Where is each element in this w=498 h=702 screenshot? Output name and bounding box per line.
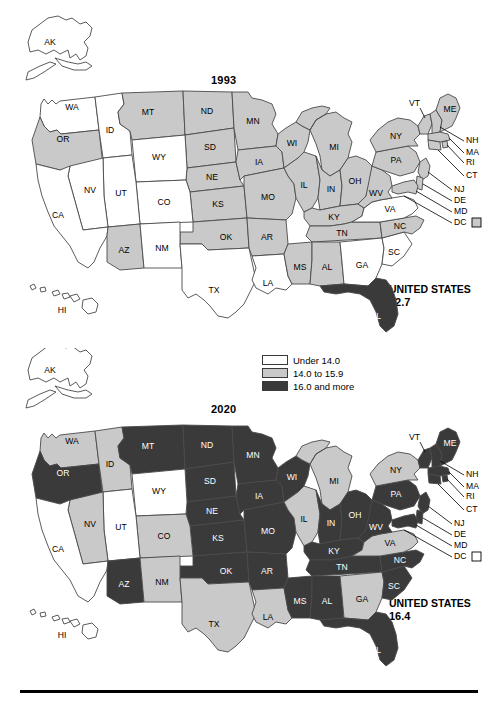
state-RI-2020[interactable] bbox=[442, 475, 448, 482]
callout-label-MD-2020: MD bbox=[454, 540, 467, 550]
leader-VT-2020 bbox=[420, 442, 425, 452]
leader-MD-1993 bbox=[416, 191, 452, 212]
state-label-MT-2020: MT bbox=[142, 441, 155, 451]
state-label-WY-2020: WY bbox=[152, 486, 166, 496]
state-AL-2020[interactable]: AL bbox=[310, 576, 344, 620]
state-label-ND-1993: ND bbox=[201, 106, 213, 116]
state-AK-1993[interactable]: AK bbox=[26, 16, 92, 80]
state-ND-2020[interactable]: ND bbox=[183, 425, 234, 469]
state-label-UT-1993: UT bbox=[115, 188, 127, 198]
state-HI-2020[interactable]: HI bbox=[30, 609, 98, 640]
callout-label-NJ-2020: NJ bbox=[454, 518, 465, 528]
callout-label-DE-2020: DE bbox=[454, 529, 466, 539]
state-label-KY-1993: KY bbox=[328, 212, 340, 222]
state-NY-1993[interactable]: NY bbox=[370, 118, 420, 152]
state-label-GA-2020: GA bbox=[356, 594, 369, 604]
state-CT-1993[interactable] bbox=[428, 140, 441, 150]
state-TX-1993[interactable]: TX bbox=[180, 244, 256, 318]
state-VT-2020[interactable] bbox=[418, 448, 432, 468]
state-label-AK-1993: AK bbox=[44, 37, 56, 47]
state-AK-2020[interactable]: AK bbox=[26, 348, 92, 408]
state-HI-1993[interactable]: HI bbox=[30, 284, 98, 315]
state-MD-1993[interactable] bbox=[392, 180, 418, 194]
leader-CT-2020 bbox=[438, 484, 464, 510]
state-WA-1993[interactable]: WA bbox=[40, 97, 99, 134]
state-VT-1993[interactable] bbox=[418, 114, 432, 134]
state-label-SD-1993: SD bbox=[204, 142, 216, 152]
map-page: 1993 UNITED STATES 12.7 AK HI WA bbox=[0, 0, 498, 702]
state-CT-2020[interactable] bbox=[428, 474, 441, 484]
leader-CT-1993 bbox=[438, 150, 464, 176]
state-KS-1993[interactable]: KS bbox=[190, 186, 247, 222]
state-CO-2020[interactable]: CO bbox=[136, 514, 193, 558]
state-WY-2020[interactable]: WY bbox=[132, 469, 187, 516]
state-label-WV-2020: WV bbox=[369, 522, 383, 532]
state-label-IL-1993: IL bbox=[300, 180, 307, 190]
callout-label-DC-1993: DC bbox=[454, 217, 466, 227]
state-label-ME-2020: ME bbox=[444, 438, 457, 448]
state-label-MO-2020: MO bbox=[261, 526, 275, 536]
state-label-NV-2020: NV bbox=[84, 519, 96, 529]
state-MN-1993[interactable]: MN bbox=[232, 92, 278, 150]
callout-label-MA-1993: MA bbox=[466, 147, 479, 157]
state-AZ-2020[interactable]: AZ bbox=[107, 558, 144, 604]
dc-swatch-1993 bbox=[472, 218, 481, 227]
state-label-IN-1993: IN bbox=[327, 184, 336, 194]
state-FL-2020[interactable]: FL bbox=[320, 612, 398, 666]
callout-label-DC-2020: DC bbox=[454, 551, 466, 561]
state-label-AL-2020: AL bbox=[322, 596, 333, 606]
callout-label-NJ-1993: NJ bbox=[454, 184, 465, 194]
state-label-ID-1993: ID bbox=[106, 125, 115, 135]
state-AR-1993[interactable]: AR bbox=[247, 218, 288, 256]
state-NM-2020[interactable]: NM bbox=[140, 556, 182, 602]
state-label-AR-2020: AR bbox=[261, 566, 273, 576]
state-MD-2020[interactable] bbox=[392, 514, 418, 528]
map-panel-1993: 1993 UNITED STATES 12.7 AK HI WA bbox=[0, 0, 498, 348]
state-SD-2020[interactable]: SD bbox=[185, 462, 236, 502]
state-NY-2020[interactable]: NY bbox=[370, 452, 420, 486]
state-label-CA-1993: CA bbox=[52, 210, 64, 220]
state-FL-1993[interactable]: FL bbox=[320, 278, 398, 332]
callout-label-RI-1993: RI bbox=[466, 157, 475, 167]
state-CO-1993[interactable]: CO bbox=[136, 180, 193, 224]
state-label-AR-1993: AR bbox=[261, 232, 273, 242]
state-label-AL-1993: AL bbox=[322, 262, 333, 272]
state-label-LA-1993: LA bbox=[263, 278, 274, 288]
state-NM-1993[interactable]: NM bbox=[140, 222, 182, 268]
state-label-VA-2020: VA bbox=[385, 538, 396, 548]
state-label-MT-1993: MT bbox=[142, 107, 155, 117]
state-label-WI-2020: WI bbox=[287, 472, 298, 482]
state-label-MN-2020: MN bbox=[246, 450, 259, 460]
bottom-divider bbox=[20, 690, 478, 693]
state-label-WV-1993: WV bbox=[369, 188, 383, 198]
state-SD-1993[interactable]: SD bbox=[185, 128, 236, 168]
state-label-TN-1993: TN bbox=[336, 228, 347, 238]
state-KS-2020[interactable]: KS bbox=[190, 520, 247, 556]
state-TX-2020[interactable]: TX bbox=[180, 578, 256, 652]
state-AR-2020[interactable]: AR bbox=[247, 552, 288, 590]
state-AL-1993[interactable]: AL bbox=[310, 242, 344, 286]
state-AZ-1993[interactable]: AZ bbox=[107, 224, 144, 270]
state-label-OH-2020: OH bbox=[349, 510, 362, 520]
state-WA-2020[interactable]: WA bbox=[40, 431, 99, 468]
choropleth-map-1993: AK HI WA OR ID bbox=[0, 0, 498, 348]
state-label-ID-2020: ID bbox=[106, 459, 115, 469]
leader-MA-1993 bbox=[449, 138, 464, 153]
callout-label-RI-2020: RI bbox=[466, 491, 475, 501]
state-label-TX-2020: TX bbox=[209, 619, 220, 629]
state-label-PA-2020: PA bbox=[391, 489, 402, 499]
state-label-TX-1993: TX bbox=[209, 285, 220, 295]
callout-label-VT-2020: VT bbox=[409, 432, 421, 442]
state-label-NC-1993: NC bbox=[394, 221, 406, 231]
state-label-MI-1993: MI bbox=[329, 142, 339, 152]
state-MN-2020[interactable]: MN bbox=[232, 426, 278, 484]
state-label-WA-1993: WA bbox=[65, 102, 79, 112]
state-label-CA-2020: CA bbox=[52, 544, 64, 554]
state-RI-1993[interactable] bbox=[442, 141, 448, 148]
state-ND-1993[interactable]: ND bbox=[183, 91, 234, 135]
state-label-GA-1993: GA bbox=[356, 260, 369, 270]
callout-label-DE-1993: DE bbox=[454, 195, 466, 205]
choropleth-map-2020: AK HI WA OR ID bbox=[0, 348, 498, 690]
state-WY-1993[interactable]: WY bbox=[132, 135, 187, 182]
state-label-NM-1993: NM bbox=[155, 243, 168, 253]
